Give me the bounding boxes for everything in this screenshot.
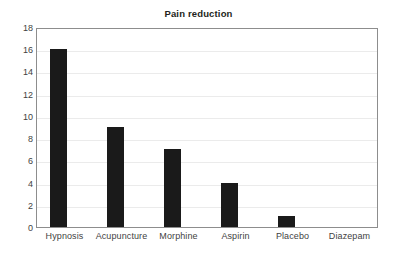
x-tick-label: Hypnosis — [36, 231, 93, 243]
bar-chart: Pain reduction 024681012141618 HypnosisA… — [0, 0, 397, 259]
bar — [221, 183, 238, 227]
bar — [107, 127, 124, 227]
x-tick-label: Acupuncture — [93, 231, 150, 243]
y-tick-label: 12 — [3, 90, 33, 99]
bar-slot — [151, 29, 208, 227]
y-tick-label: 4 — [3, 179, 33, 188]
bar-slot — [322, 29, 379, 227]
y-tick-label: 16 — [3, 46, 33, 55]
bar — [164, 149, 181, 227]
x-tick-label: Aspirin — [207, 231, 264, 243]
bar-slot — [37, 29, 94, 227]
x-tick-label: Morphine — [150, 231, 207, 243]
y-tick-label: 14 — [3, 68, 33, 77]
bar-slot — [94, 29, 151, 227]
x-axis: HypnosisAcupunctureMorphineAspirinPlaceb… — [36, 231, 378, 247]
y-tick-label: 0 — [3, 224, 33, 233]
x-tick-label: Diazepam — [321, 231, 378, 243]
plot-area — [36, 28, 378, 228]
x-tick-label: Placebo — [264, 231, 321, 243]
y-axis: 024681012141618 — [0, 28, 33, 228]
y-tick-label: 10 — [3, 112, 33, 121]
y-tick-label: 6 — [3, 157, 33, 166]
y-tick-label: 2 — [3, 201, 33, 210]
bar — [50, 49, 67, 227]
bar — [278, 216, 295, 227]
y-tick-label: 18 — [3, 24, 33, 33]
bar-slot — [265, 29, 322, 227]
bar-slot — [208, 29, 265, 227]
chart-title: Pain reduction — [0, 8, 397, 19]
y-tick-label: 8 — [3, 135, 33, 144]
